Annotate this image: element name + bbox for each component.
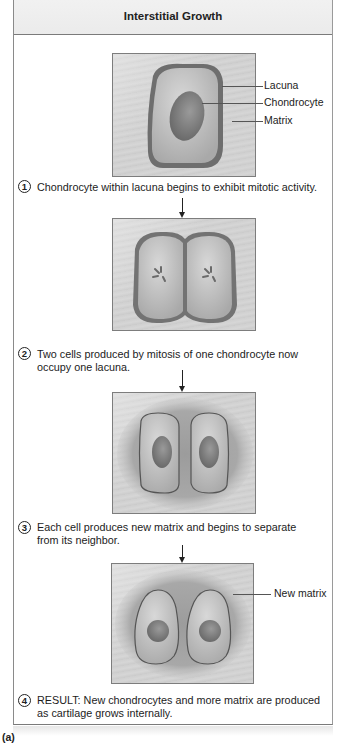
matrix-leader-line — [232, 121, 263, 122]
single-chondrocyte-illustration — [113, 54, 256, 177]
new-chondrocytes-illustration — [112, 564, 254, 684]
arrow-down-icon — [182, 545, 183, 559]
step-4-text-line-2: as cartilage grows internally. — [37, 707, 172, 720]
new-matrix-label: New matrix — [274, 587, 327, 599]
step-1-number-badge: 1 — [18, 180, 31, 193]
figure-part-label: (a) — [2, 731, 15, 743]
panel-new-matrix — [111, 563, 254, 684]
step-3-text-line-1: Each cell produces new matrix and begins… — [37, 521, 296, 534]
panel-mitosis — [112, 218, 256, 331]
dividing-cells-illustration — [113, 219, 256, 331]
arrow-down-icon — [182, 198, 183, 214]
arrow-down-icon — [182, 370, 183, 388]
chondrocyte-leader-line — [202, 103, 263, 104]
new-matrix-leader-line — [233, 594, 271, 595]
step-3-number-badge: 3 — [18, 521, 31, 534]
lacuna-leader-line — [222, 86, 263, 87]
figure-header: Interstitial Growth — [14, 0, 332, 35]
step-4-text-line-1: RESULT: New chondrocytes and more matrix… — [37, 694, 320, 707]
panel-separation — [112, 392, 256, 514]
step-2-number-badge: 2 — [18, 347, 31, 360]
step-2-text-line-2: occupy one lacuna. — [37, 361, 130, 374]
step-4-number-badge: 4 — [18, 694, 31, 707]
step-3-text-line-2: from its neighbor. — [37, 534, 120, 547]
chondrocyte-label: Chondrocyte — [264, 96, 324, 108]
step-1-text: Chondrocyte within lacuna begins to exhi… — [37, 181, 317, 194]
separating-cells-illustration — [113, 393, 256, 514]
matrix-label: Matrix — [264, 114, 293, 126]
lacuna-label: Lacuna — [264, 79, 298, 91]
figure-title: Interstitial Growth — [14, 10, 332, 22]
panel-single-chondrocyte — [112, 53, 256, 177]
frame-shadow — [13, 726, 333, 736]
step-2-text-line-1: Two cells produced by mitosis of one cho… — [37, 348, 298, 361]
